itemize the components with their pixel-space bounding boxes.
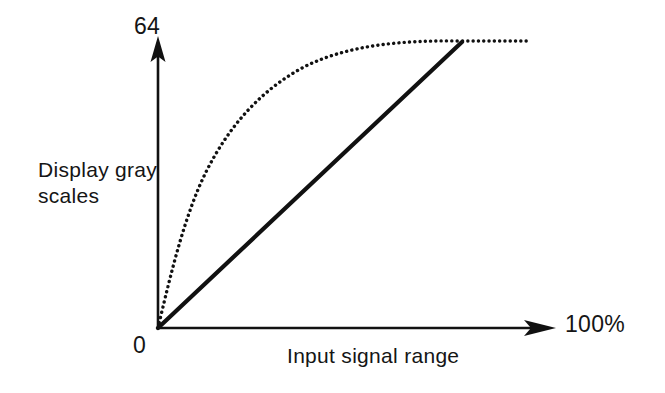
x-axis — [158, 320, 556, 336]
figure-canvas: 64 0 100% Display grayscales Input signa… — [0, 0, 665, 393]
origin-label: 0 — [133, 331, 146, 359]
y-axis-title-line-2: scales — [38, 184, 99, 207]
x-axis-max-label: 100% — [565, 310, 625, 338]
x-axis-title: Input signal range — [287, 343, 459, 369]
series-linear-line — [158, 42, 462, 328]
y-axis-title: Display grayscales — [38, 157, 157, 208]
y-axis-max-label: 64 — [134, 12, 160, 40]
y-axis-title-line-1: Display gray — [38, 158, 157, 181]
series-gamma-dotted-curve — [158, 41, 530, 328]
